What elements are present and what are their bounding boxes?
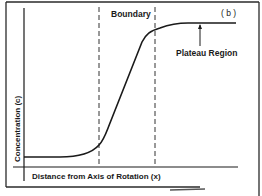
boundary-label: Boundary	[111, 9, 151, 19]
panel-label: ( b )	[221, 8, 236, 18]
plateau-region-label: Plateau Region	[176, 48, 237, 58]
y-axis-label: Concentration (c)	[13, 95, 22, 162]
plateau-arrow-icon	[198, 24, 202, 46]
sedimentation-boundary-diagram: ( b ) Boundary Plateau Region Concentrat…	[0, 0, 262, 196]
x-axis-label: Distance from Axis of Rotation (x)	[32, 172, 161, 181]
concentration-curve	[24, 23, 236, 157]
